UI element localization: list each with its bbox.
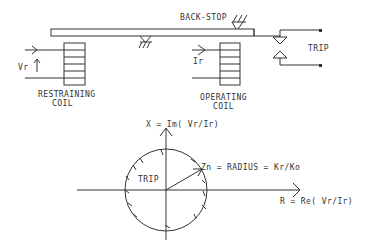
voltage-arrow-icon bbox=[34, 59, 40, 72]
relay-diagram: BACK-STOP TRIP Vr RESTRAINING COIL bbox=[0, 0, 374, 250]
trip-contact-label: TRIP bbox=[308, 44, 329, 53]
vr-label: Vr bbox=[18, 63, 28, 72]
radius-vector bbox=[166, 169, 202, 190]
restraining-coil-label-2: COIL bbox=[52, 99, 73, 108]
operating-coil-label-2: COIL bbox=[213, 102, 234, 111]
operating-coil bbox=[220, 43, 240, 85]
back-stop-icon bbox=[232, 15, 254, 36]
trip-region-label: TRIP bbox=[138, 175, 159, 184]
balance-beam bbox=[51, 29, 254, 36]
back-stop-label: BACK-STOP bbox=[180, 13, 227, 22]
operating-coil-label: OPERATING bbox=[200, 93, 247, 102]
radius-label: Zn = RADIUS = Kr/Ko bbox=[201, 163, 300, 172]
ir-label: Ir bbox=[193, 57, 203, 66]
restraining-coil-label: RESTRAINING bbox=[38, 90, 95, 99]
r-axis-label: R = Re( Vr/Ir) bbox=[280, 197, 353, 206]
pivot-icon bbox=[139, 36, 152, 48]
restraining-coil bbox=[64, 43, 85, 85]
x-axis-label: X = Im( Vr/Ir) bbox=[146, 120, 219, 129]
